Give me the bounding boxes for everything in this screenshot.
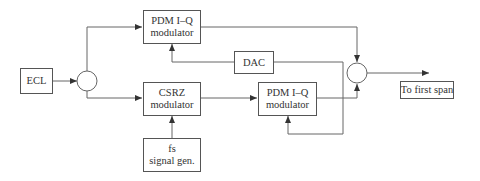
- wire-dac-to-pdm-top: [172, 44, 234, 62]
- dac-label: DAC: [243, 57, 265, 69]
- csrz-label-line2: modulator: [150, 99, 193, 111]
- dac-block: DAC: [234, 51, 274, 74]
- ecl-label: ECL: [27, 75, 47, 87]
- wire-splitter-to-pdm-top: [87, 27, 142, 71]
- pdm-iq-modulator-top-block: PDM I–Q modulator: [143, 10, 201, 44]
- wire-pdm-top-to-combiner: [201, 27, 357, 62]
- wire-splitter-to-csrz: [87, 91, 142, 98]
- ecl-block: ECL: [20, 68, 53, 94]
- signal-generator-block: fs signal gen.: [143, 138, 201, 172]
- pdm-top-label-line2: modulator: [150, 27, 193, 39]
- splitter-node: [77, 71, 97, 91]
- pdm-iq-modulator-bottom-block: PDM I–Q modulator: [258, 82, 317, 116]
- csrz-label-line1: CSRZ: [159, 87, 185, 99]
- to-first-span-block: To first span: [400, 81, 454, 99]
- csrz-modulator-block: CSRZ modulator: [143, 82, 201, 116]
- pdm-bottom-label-line2: modulator: [266, 99, 309, 111]
- output-label: To first span: [401, 84, 453, 96]
- pdm-bottom-label-line1: PDM I–Q: [267, 87, 309, 99]
- siggen-label-line2: signal gen.: [149, 155, 195, 167]
- pdm-top-label-line1: PDM I–Q: [151, 15, 193, 27]
- siggen-label-line1: fs: [168, 143, 176, 155]
- combiner-node: [347, 63, 367, 83]
- wire-pdm-bottom-to-combiner: [317, 84, 357, 98]
